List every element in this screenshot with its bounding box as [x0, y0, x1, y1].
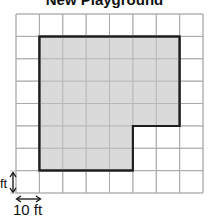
vertical-scale-arrow-icon	[10, 173, 16, 193]
grid-diagram	[0, 0, 209, 217]
horizontal-scale-label: 10 ft	[13, 202, 42, 217]
vertical-scale-label: ft	[0, 177, 7, 191]
